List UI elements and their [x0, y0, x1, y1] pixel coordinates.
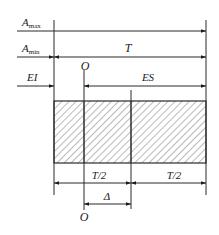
t-label: T [125, 41, 133, 55]
a-min-label: Amin [21, 42, 40, 56]
delta-label: Δ [103, 190, 110, 202]
origin-top-label: O [81, 59, 90, 73]
a-max-label: Amax [21, 16, 41, 30]
tolerance-diagram: Amax Amin T O EI ES T/2 T/2 Δ O [0, 0, 219, 235]
tolerance-zone-hatch [54, 101, 206, 163]
origin-bottom-label: O [80, 210, 89, 224]
es-label: ES [141, 71, 155, 83]
half-t-right-label: T/2 [167, 169, 182, 181]
ei-label: EI [26, 71, 39, 83]
half-t-left-label: T/2 [92, 169, 107, 181]
